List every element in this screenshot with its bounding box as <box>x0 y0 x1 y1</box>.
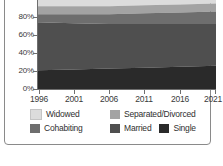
legend-entry-widowed: Widowed <box>30 109 102 120</box>
legend-entry-separated-divorced: Separated/Divorced <box>110 110 196 119</box>
x-tick-label-1996: 1996 <box>22 95 56 104</box>
x-tick-label-2006: 2006 <box>92 95 126 104</box>
chart-legend: Widowed Separated/Divorced Cohabiting Ma… <box>30 108 210 136</box>
plot-area <box>38 0 216 89</box>
legend-entry-cohabiting: Cohabiting <box>30 124 102 133</box>
legend-swatch-single <box>159 124 169 133</box>
legend-swatch-separated-divorced <box>110 110 120 119</box>
y-tick-label-60: 60% <box>8 31 34 39</box>
legend-label-cohabiting: Cohabiting <box>44 124 83 133</box>
legend-row-2: Cohabiting Married Single <box>30 122 210 135</box>
x-tick-label-2001: 2001 <box>57 95 91 104</box>
y-tick-label-20: 20% <box>8 67 34 75</box>
legend-label-separated-divorced: Separated/Divorced <box>124 110 196 119</box>
y-tick-label-80: 80% <box>8 13 34 21</box>
legend-row-1: Widowed Separated/Divorced <box>30 108 210 121</box>
legend-label-single: Single <box>173 124 195 133</box>
stacked-area-chart-figure: 80% 60% 40% 20% 0% 1996 2001 2006 2011 2… <box>0 0 217 166</box>
legend-entry-single: Single <box>159 124 195 133</box>
legend-swatch-widowed <box>30 109 42 120</box>
x-tick-label-2016: 2016 <box>163 95 197 104</box>
y-tick-label-40: 40% <box>8 49 34 57</box>
area-band-married <box>38 22 216 70</box>
legend-label-widowed: Widowed <box>46 110 80 119</box>
y-axis-line <box>37 0 38 90</box>
x-tick-label-2021: 2021 <box>196 95 217 104</box>
legend-label-married: Married <box>124 124 151 133</box>
y-axis: 80% 60% 40% 20% 0% <box>4 0 34 95</box>
x-tick-label-2011: 2011 <box>127 95 161 104</box>
y-tick-label-0: 0% <box>8 85 34 93</box>
legend-swatch-cohabiting <box>30 124 40 133</box>
legend-entry-married: Married <box>110 124 151 133</box>
legend-swatch-married <box>110 124 120 133</box>
x-axis-line <box>37 89 216 90</box>
stacked-area-svg <box>38 0 216 89</box>
